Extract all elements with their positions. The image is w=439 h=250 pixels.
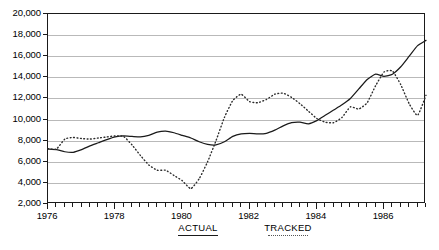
series-svg <box>48 14 426 204</box>
y-axis-tick-label: 8,000 <box>0 134 41 145</box>
y-axis-tick-label: 12,000 <box>0 91 41 102</box>
x-axis-major-tick <box>114 203 115 209</box>
x-axis-minor-tick <box>299 203 300 207</box>
x-axis-minor-tick <box>358 203 359 207</box>
x-axis-minor-tick <box>257 203 258 207</box>
x-axis-tick-label: 1978 <box>104 210 125 221</box>
x-axis-tick-label: 1986 <box>373 210 394 221</box>
x-axis-minor-tick <box>232 203 233 207</box>
x-axis-minor-tick <box>89 203 90 207</box>
series-line-tracked <box>48 71 426 189</box>
x-axis-minor-tick <box>106 203 107 207</box>
dotted-line-swatch <box>268 235 308 236</box>
plot-area <box>47 13 425 203</box>
x-axis-minor-tick <box>408 203 409 207</box>
x-axis-minor-tick <box>417 203 418 207</box>
x-axis-minor-tick <box>55 203 56 207</box>
y-axis-tick-label: 18,000 <box>0 28 41 39</box>
legend-item: TRACKED <box>253 222 323 236</box>
x-axis-minor-tick <box>190 203 191 207</box>
x-axis-minor-tick <box>425 203 426 207</box>
y-axis-tick-label: 16,000 <box>0 49 41 60</box>
data-layer <box>48 14 424 202</box>
x-axis-minor-tick <box>240 203 241 207</box>
x-axis-minor-tick <box>207 203 208 207</box>
y-axis-tick-label: 10,000 <box>0 113 41 124</box>
x-axis-tick-label: 1982 <box>238 210 259 221</box>
y-axis-tick-label: 20,000 <box>0 7 41 18</box>
x-axis-minor-tick <box>333 203 334 207</box>
x-axis-minor-tick <box>123 203 124 207</box>
x-axis-minor-tick <box>215 203 216 207</box>
x-axis-tick-label: 1976 <box>37 210 58 221</box>
x-axis-minor-tick <box>173 203 174 207</box>
x-axis-minor-tick <box>324 203 325 207</box>
x-axis-major-tick <box>383 203 384 209</box>
x-axis-major-tick <box>47 203 48 209</box>
x-axis-minor-tick <box>274 203 275 207</box>
x-axis-minor-tick <box>165 203 166 207</box>
x-axis-minor-tick <box>341 203 342 207</box>
x-axis-minor-tick <box>139 203 140 207</box>
x-axis-minor-tick <box>81 203 82 207</box>
x-axis-minor-tick <box>391 203 392 207</box>
x-axis-minor-tick <box>307 203 308 207</box>
x-axis-tick-label: 1980 <box>171 210 192 221</box>
x-axis-minor-tick <box>148 203 149 207</box>
chart-legend: ACTUALTRACKED <box>0 222 439 250</box>
x-axis-minor-tick <box>349 203 350 207</box>
y-axis-tick-label: 14,000 <box>0 70 41 81</box>
x-axis-minor-tick <box>97 203 98 207</box>
x-axis-minor-tick <box>282 203 283 207</box>
x-axis-minor-tick <box>375 203 376 207</box>
x-axis-tick-label: 1984 <box>305 210 326 221</box>
x-axis-minor-tick <box>400 203 401 207</box>
x-axis-minor-tick <box>223 203 224 207</box>
x-axis-minor-tick <box>366 203 367 207</box>
x-axis-minor-tick <box>265 203 266 207</box>
x-axis-minor-tick <box>291 203 292 207</box>
x-axis-minor-tick <box>131 203 132 207</box>
legend-label: TRACKED <box>253 222 323 233</box>
legend-item: ACTUAL <box>163 222 233 236</box>
legend-label: ACTUAL <box>163 222 233 233</box>
x-axis-major-tick <box>316 203 317 209</box>
solid-line-swatch <box>178 235 218 236</box>
y-axis-tick-label: 6,000 <box>0 155 41 166</box>
chart-figure: 2,0004,0006,0008,00010,00012,00014,00016… <box>0 0 439 250</box>
x-axis-minor-tick <box>198 203 199 207</box>
y-axis-tick-label: 2,000 <box>0 197 41 208</box>
x-axis-minor-tick <box>72 203 73 207</box>
x-axis-minor-tick <box>156 203 157 207</box>
x-axis-major-tick <box>181 203 182 209</box>
y-axis-tick-label: 4,000 <box>0 176 41 187</box>
x-axis-minor-tick <box>64 203 65 207</box>
x-axis-major-tick <box>249 203 250 209</box>
